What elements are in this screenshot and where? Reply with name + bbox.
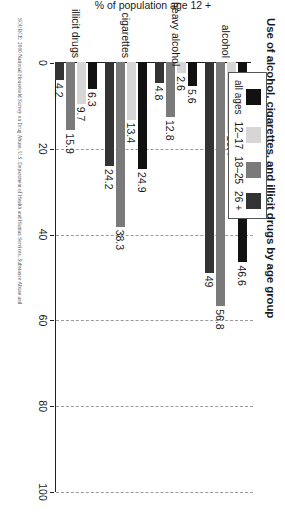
bar-value-label: 24.2 (104, 169, 116, 189)
bar-value-label: 38.3 (115, 230, 127, 250)
bar-group: 24.913.438.324.2cigarettes (101, 62, 151, 492)
y-axis-label-text: % of population age 12 + (95, 0, 211, 11)
bar-value-label: 12.8 (165, 120, 177, 140)
bar-row: 24.2 (105, 62, 114, 492)
y-axis-tick-label: 40 (37, 220, 49, 250)
bar[interactable] (77, 62, 86, 104)
y-axis-tick-label: 0 (37, 48, 49, 78)
bar[interactable] (55, 62, 64, 80)
legend-swatch-26-plus (246, 193, 261, 209)
bar-row: 9.7 (77, 62, 86, 492)
bar[interactable] (66, 62, 75, 130)
bar-row: 4.8 (155, 62, 164, 492)
bar-value-label: 56.8 (215, 309, 227, 329)
legend-label: 12–17 (233, 121, 244, 149)
bar[interactable] (188, 62, 197, 86)
legend-label: 26 + (233, 191, 244, 211)
legend-swatch-18-25 (246, 162, 261, 178)
category-label: illicit drugs (70, 2, 82, 58)
bar[interactable] (166, 62, 175, 117)
y-axis-tick-label: 100 (37, 477, 49, 507)
bar-group: 6.39.715.94.2illicit drugs (51, 62, 101, 492)
bar-value-label: 15.9 (65, 133, 77, 153)
bar-chart-figure: Use of alcohol, cigarettes, and illicit … (0, 0, 285, 515)
bar[interactable] (127, 62, 136, 120)
bar-value-label: 9.7 (76, 107, 88, 122)
gridline (56, 492, 253, 493)
bar-value-label: 2.6 (176, 76, 188, 91)
category-label: heavy alcohol (170, 2, 182, 58)
bar[interactable] (205, 62, 214, 273)
legend-item[interactable]: 26 + (233, 191, 261, 211)
bar-value-label: 5.6 (187, 89, 199, 104)
category-label: alcohol (220, 2, 232, 58)
bar[interactable] (88, 62, 97, 89)
bar-value-label: 24.9 (137, 172, 149, 192)
source-note: SOURCE: 2000 National Household Survey o… (17, 18, 23, 304)
y-axis-tick-label: 20 (37, 134, 49, 164)
legend-item[interactable]: 12–17 (233, 121, 261, 149)
y-axis-tick-label: 60 (37, 305, 49, 335)
bar-row: 4.2 (55, 62, 64, 492)
bar-row: 15.9 (66, 62, 75, 492)
y-axis-tick-label: 80 (37, 391, 49, 421)
bar-groups: 46.616.456.849alcohol5.62.612.84.8heavy … (55, 62, 251, 492)
category-label: cigarettes (120, 2, 132, 58)
rotated-figure-container: Use of alcohol, cigarettes, and illicit … (0, 0, 285, 515)
bar-row: 6.3 (88, 62, 97, 492)
legend-swatch-all-ages (246, 89, 261, 105)
bar[interactable] (138, 62, 147, 169)
bar-row: 2.6 (177, 62, 186, 492)
bar-row: 5.6 (188, 62, 197, 492)
bar-value-label: 6.3 (87, 92, 99, 107)
legend-label: all ages (233, 80, 244, 114)
bar-group: 5.62.612.84.8heavy alcohol (151, 62, 201, 492)
bar-row: 49 (205, 62, 214, 492)
legend: all ages 12–17 18–25 26 + (228, 72, 267, 219)
bar[interactable] (116, 62, 125, 227)
bar[interactable] (105, 62, 114, 166)
bar-row: 38.3 (116, 62, 125, 492)
bar-value-label: 46.6 (237, 265, 249, 285)
bar-row: 56.8 (216, 62, 225, 492)
bar-row: 24.9 (138, 62, 147, 492)
legend-label: 18–25 (233, 156, 244, 184)
legend-item[interactable]: all ages (233, 80, 261, 114)
bar-row: 12.8 (166, 62, 175, 492)
bar-value-label: 13.4 (126, 123, 138, 143)
legend-swatch-12-17 (246, 127, 261, 143)
bar-value-label: 4.8 (154, 86, 166, 101)
bar[interactable] (216, 62, 225, 306)
bar-row: 13.4 (127, 62, 136, 492)
legend-item[interactable]: 18–25 (233, 156, 261, 184)
bar[interactable] (155, 62, 164, 83)
bar-value-label: 49 (204, 276, 216, 288)
bar-value-label: 4.2 (54, 83, 66, 98)
